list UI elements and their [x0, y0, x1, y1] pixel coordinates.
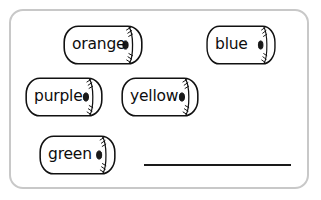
paper-roll-icon [121, 77, 199, 117]
word-chip-orange[interactable]: orange [63, 25, 143, 65]
answer-blank-line[interactable] [144, 164, 291, 166]
paper-roll-icon [39, 135, 116, 175]
paper-roll-icon [206, 25, 276, 65]
paper-roll-icon [63, 25, 143, 65]
word-chip-purple[interactable]: purple [25, 77, 103, 117]
paper-roll-icon [25, 77, 103, 117]
worksheet-card: orange blue [9, 9, 309, 189]
word-chip-blue[interactable]: blue [206, 25, 276, 65]
word-chip-green[interactable]: green [39, 135, 116, 175]
word-chip-yellow[interactable]: yellow [121, 77, 199, 117]
